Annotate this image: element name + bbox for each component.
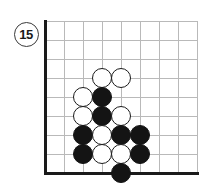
white-stone[interactable] xyxy=(111,68,131,88)
black-stone[interactable] xyxy=(92,106,112,126)
grid-line-horizontal xyxy=(45,97,197,98)
black-stone[interactable] xyxy=(73,144,93,164)
black-stone[interactable] xyxy=(130,125,150,145)
black-stone[interactable] xyxy=(111,125,131,145)
black-stone[interactable] xyxy=(130,144,150,164)
grid-line-horizontal xyxy=(45,40,197,41)
grid-line-horizontal xyxy=(45,21,197,22)
grid-line-horizontal xyxy=(45,59,197,60)
grid-line-vertical xyxy=(197,21,198,173)
black-stone[interactable] xyxy=(111,163,131,183)
move-number-label: 15 xyxy=(19,28,32,41)
white-stone[interactable] xyxy=(111,106,131,126)
move-number-badge: 15 xyxy=(14,22,39,47)
white-stone[interactable] xyxy=(92,68,112,88)
go-problem-diagram: 15 xyxy=(0,0,217,186)
white-stone[interactable] xyxy=(73,106,93,126)
black-stone[interactable] xyxy=(92,87,112,107)
white-stone[interactable] xyxy=(92,144,112,164)
black-stone[interactable] xyxy=(73,125,93,145)
white-stone[interactable] xyxy=(73,87,93,107)
white-stone[interactable] xyxy=(92,125,112,145)
board-left-edge xyxy=(44,20,47,175)
white-stone[interactable] xyxy=(111,144,131,164)
